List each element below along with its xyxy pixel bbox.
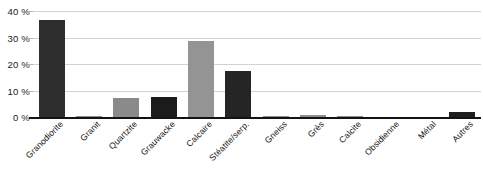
bar-chart: 0 %10 %20 %30 %40 % GranodioriteGranitQu… <box>0 0 483 176</box>
x-tick-label: Granit <box>78 119 102 143</box>
y-tick-label: 20 % <box>8 59 30 70</box>
x-tick-label: Métal <box>416 119 438 141</box>
x-tick-label: Quartzite <box>107 119 139 151</box>
x-tick-label: Obsidienne <box>362 119 401 158</box>
bars-layer <box>33 11 481 117</box>
x-axis-labels: GranodioriteGranitQuartziteGrauwackeCalc… <box>33 119 481 176</box>
y-tick-label: 40 % <box>8 6 30 17</box>
bar <box>188 41 214 117</box>
x-tick-label: Autres <box>450 119 475 144</box>
y-tick-label: 30 % <box>8 32 30 43</box>
y-tick-label: 10 % <box>8 85 30 96</box>
x-tick-label: Gneiss <box>262 119 288 145</box>
x-tick-label: Calcite <box>337 119 363 145</box>
bar <box>113 98 139 117</box>
x-tick-label: Calcaire <box>184 119 214 149</box>
x-tick-label: Granodiorite <box>23 119 64 160</box>
x-tick-label: Grauwacke <box>138 119 176 157</box>
bar <box>39 20 65 117</box>
x-tick-label: Grès <box>306 119 327 140</box>
bar <box>151 97 177 117</box>
y-axis: 0 %10 %20 %30 %40 % <box>0 0 33 122</box>
bar <box>225 71 251 117</box>
